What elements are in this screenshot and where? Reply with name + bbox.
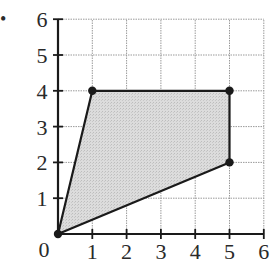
x-tick-label: 4 (190, 239, 201, 264)
vertex-dot (225, 87, 233, 95)
quadrilateral-region (58, 91, 230, 234)
y-tick-label: 6 (37, 7, 48, 32)
vertex-dot (54, 230, 62, 238)
y-tick-label: 1 (37, 186, 48, 211)
y-tick-label: 3 (37, 115, 48, 140)
x-tick-label: 1 (87, 239, 98, 264)
plot-area: 1234560123456 (0, 0, 270, 265)
vertex-dot (88, 87, 96, 95)
x-tick-label: 2 (121, 239, 132, 264)
y-tick-label: 5 (37, 43, 48, 68)
x-tick-label: 3 (155, 239, 166, 264)
shaded-polygon (58, 91, 230, 234)
bullet-marker: • (0, 9, 6, 30)
x-tick-label: 5 (224, 239, 235, 264)
y-tick-label: 4 (37, 79, 48, 104)
y-tick-label: 2 (37, 150, 48, 175)
origin-label: 0 (39, 237, 50, 262)
x-tick-label: 6 (258, 239, 269, 264)
coordinate-plane-figure: • 1234560123456 (0, 0, 270, 265)
vertex-dot (225, 158, 233, 166)
